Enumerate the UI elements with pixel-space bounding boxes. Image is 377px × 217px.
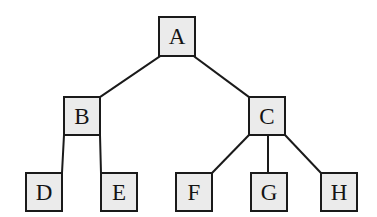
node-label-c: C [259, 105, 274, 128]
node-label-g: G [261, 181, 278, 204]
tree-edge-a-b [100, 57, 159, 97]
node-label-a: A [169, 25, 186, 48]
tree-edge-b-e [100, 135, 101, 173]
tree-node-h[interactable]: H [320, 172, 358, 212]
tree-node-b[interactable]: B [63, 96, 101, 136]
node-label-h: H [331, 181, 348, 204]
tree-node-e[interactable]: E [100, 172, 138, 212]
tree-edge-c-f [212, 135, 249, 173]
tree-diagram: A B C D E F G H [0, 0, 377, 217]
node-label-e: E [112, 181, 126, 204]
tree-edge-a-c [195, 57, 249, 97]
tree-edge-b-d [62, 135, 64, 173]
node-label-b: B [74, 105, 89, 128]
tree-node-d[interactable]: D [25, 172, 63, 212]
tree-node-f[interactable]: F [175, 172, 213, 212]
tree-edge-c-h [285, 135, 321, 173]
node-label-d: D [36, 181, 53, 204]
tree-node-c[interactable]: C [248, 96, 286, 136]
node-label-f: F [188, 181, 201, 204]
tree-node-g[interactable]: G [250, 172, 288, 212]
tree-node-a[interactable]: A [158, 16, 196, 57]
